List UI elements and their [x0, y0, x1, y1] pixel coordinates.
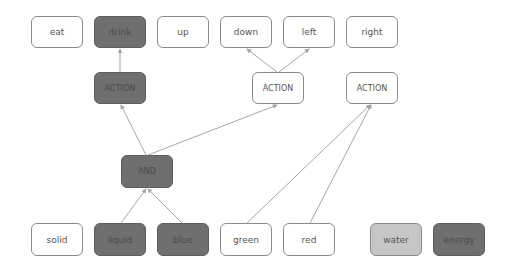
node-label: green: [233, 235, 259, 245]
node-label: right: [361, 27, 382, 37]
node-label: drink: [109, 27, 132, 37]
node-label: energy: [443, 235, 474, 245]
node-label: ACTION: [357, 84, 387, 93]
node-green: green: [220, 223, 272, 256]
edge-action2-left: [279, 49, 309, 72]
node-label: left: [302, 27, 317, 37]
node-label: water: [383, 235, 409, 245]
node-label: red: [302, 235, 317, 245]
node-and: AND: [121, 155, 173, 188]
node-drink: drink: [94, 16, 146, 48]
node-label: liquid: [108, 235, 133, 245]
node-solid: solid: [31, 223, 83, 256]
edge-and-action1: [121, 105, 146, 155]
node-label: up: [177, 27, 188, 37]
node-left: left: [283, 16, 335, 48]
node-label: ACTION: [105, 84, 135, 93]
edge-blue-and: [148, 189, 182, 223]
edge-green-action3: [247, 105, 370, 223]
node-action-2: ACTION: [252, 72, 304, 104]
node-liquid: liquid: [94, 223, 146, 256]
edge-action2-down: [247, 49, 277, 72]
node-label: eat: [50, 27, 65, 37]
node-energy: energy: [433, 223, 485, 256]
node-action-1: ACTION: [94, 72, 146, 104]
edge-red-action3: [310, 105, 371, 223]
edge-and-action2: [148, 105, 277, 155]
node-label: solid: [47, 235, 68, 245]
node-red: red: [283, 223, 335, 256]
node-water: water: [370, 223, 422, 256]
node-right: right: [346, 16, 398, 48]
node-label: AND: [138, 167, 156, 176]
node-action-3: ACTION: [346, 72, 398, 104]
node-label: down: [234, 27, 258, 37]
node-down: down: [220, 16, 272, 48]
node-blue: blue: [157, 223, 209, 256]
node-label: ACTION: [263, 84, 293, 93]
node-label: blue: [173, 235, 192, 245]
node-up: up: [157, 16, 209, 48]
node-eat: eat: [31, 16, 83, 48]
edge-liquid-and: [121, 189, 146, 223]
